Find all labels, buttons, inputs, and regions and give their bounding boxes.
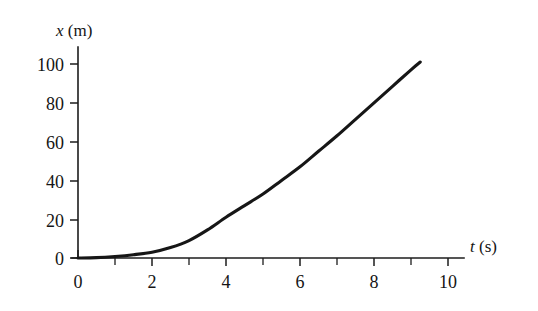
chart-figure: x (m) t (s) 100 80 60 40 20 0: [0, 0, 538, 311]
x-tick-label: 6: [296, 272, 305, 292]
y-tick-label: 80: [46, 94, 64, 114]
x-tick-label: 2: [148, 272, 157, 292]
x-axis-minor-ticks: [115, 258, 411, 265]
x-axis-label: t (s): [470, 237, 497, 256]
position-curve: [78, 62, 420, 258]
y-tick-label: 0: [55, 249, 64, 269]
y-tick-label: 60: [46, 133, 64, 153]
x-tick-label: 10: [439, 272, 457, 292]
y-tick-label: 20: [46, 211, 64, 231]
x-axis-tick-labels: 0 2 4 6 8 10: [74, 272, 458, 292]
y-axis-label: x (m): [55, 21, 92, 40]
y-tick-label: 40: [46, 172, 64, 192]
position-time-plot: x (m) t (s) 100 80 60 40 20 0: [0, 0, 538, 311]
x-tick-label: 0: [74, 272, 83, 292]
y-axis-tick-labels: 100 80 60 40 20 0: [37, 55, 64, 269]
y-axis-ticks: [70, 64, 78, 258]
x-tick-label: 4: [222, 272, 231, 292]
y-tick-label: 100: [37, 55, 64, 75]
x-tick-label: 8: [370, 272, 379, 292]
